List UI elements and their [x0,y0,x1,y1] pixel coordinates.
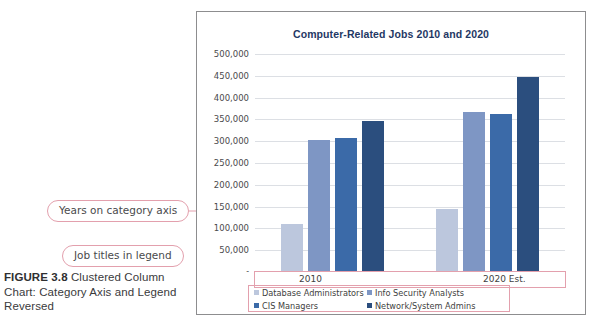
gridline [255,54,565,55]
callout-years-on-category-axis: Years on category axis [47,200,189,222]
plot-area: -50,000100,000150,000200,000250,000300,0… [255,54,565,272]
y-axis-tick-label: 300,000 [214,136,249,146]
legend-label: Network/System Admins [375,301,475,311]
y-axis-tick-label: 200,000 [214,180,249,190]
legend-swatch-icon [254,290,259,295]
legend-item-database-administrators: Database Administrators [254,288,364,298]
bar-2010-0 [281,224,303,272]
bar-2010-2 [335,138,357,272]
bar-2020-est--2 [490,114,512,272]
legend-swatch-icon [367,303,372,308]
bar-2010-3 [362,121,384,272]
bar-2020-est--1 [463,112,485,272]
legend-item-info-security-analysts: Info Security Analysts [367,288,464,298]
y-axis-tick-label: 150,000 [214,202,249,212]
y-axis-tick-label: 100,000 [214,223,249,233]
y-axis-tick-label: 500,000 [214,49,249,59]
y-axis-tick-label: 250,000 [214,158,249,168]
bar-2020-est--3 [517,77,539,272]
bar-2020-est--0 [436,209,458,272]
y-axis-tick-label: 350,000 [214,114,249,124]
figure-label: FIGURE 3.8 [4,271,68,283]
y-axis-tick-label: 450,000 [214,71,249,81]
legend-label: Info Security Analysts [375,288,464,298]
y-axis-zero-tick: - [246,266,249,276]
legend-label: Database Administrators [262,288,364,298]
legend-item-cis-managers: CIS Managers [254,301,318,311]
figure-caption: FIGURE 3.8 Clustered Column Chart: Categ… [4,270,194,314]
legend-label: CIS Managers [262,301,318,311]
callout-job-titles-in-legend: Job titles in legend [62,245,184,267]
legend-swatch-icon [254,303,259,308]
chart-frame: Computer-Related Jobs 2010 and 2020 -50,… [196,11,586,315]
y-axis-tick-label: 400,000 [214,93,249,103]
chart-title: Computer-Related Jobs 2010 and 2020 [197,28,585,40]
legend-swatch-icon [367,290,372,295]
legend-item-network-system-admins: Network/System Admins [367,301,475,311]
y-axis-tick-label: 50,000 [219,245,249,255]
bar-2010-1 [308,140,330,272]
